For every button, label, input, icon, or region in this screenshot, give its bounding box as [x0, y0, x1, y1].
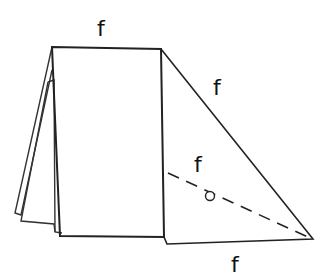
- main-panel: [52, 47, 164, 237]
- triangle-flap: [161, 49, 313, 244]
- label-bottom-edge: f: [231, 252, 240, 277]
- outer-fold-panel: [15, 47, 52, 215]
- fold-point-marker: [206, 192, 215, 201]
- label-top-edge: f: [97, 16, 106, 41]
- folded-paper-diagram: f f f f: [0, 0, 318, 279]
- dashed-fold-line: [168, 173, 310, 238]
- label-dashed-fold: f: [194, 152, 203, 177]
- label-diagonal-edge: f: [213, 75, 222, 100]
